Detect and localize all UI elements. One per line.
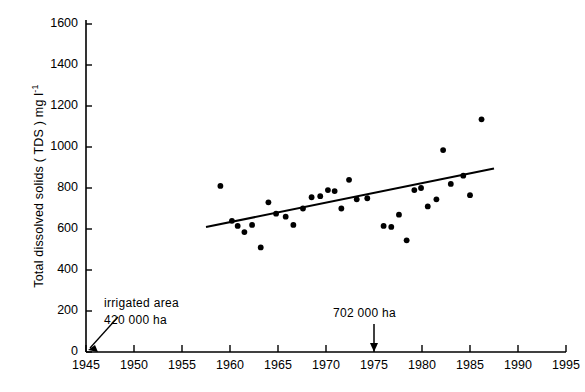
data-point (309, 194, 315, 200)
data-point (404, 237, 410, 243)
data-point (242, 229, 248, 235)
data-point (418, 185, 424, 191)
y-tick-label: 1200 (36, 98, 78, 112)
data-point (467, 192, 473, 198)
data-point (325, 187, 331, 193)
x-tick-label: 1975 (349, 358, 399, 372)
y-tick-label: 1400 (36, 57, 78, 71)
data-point (425, 204, 431, 210)
y-tick-label: 1000 (36, 139, 78, 153)
data-point (396, 212, 402, 218)
y-tick-label: 400 (36, 262, 78, 276)
x-tick-label: 1990 (493, 358, 543, 372)
x-tick-label: 1970 (301, 358, 351, 372)
data-point (235, 223, 241, 229)
data-point (388, 224, 394, 230)
data-point (364, 195, 370, 201)
y-tick-label: 800 (36, 180, 78, 194)
x-tick-label: 1960 (205, 358, 255, 372)
data-point (346, 177, 352, 183)
x-tick-label: 1995 (541, 358, 585, 372)
x-tick-label: 1955 (157, 358, 207, 372)
y-axis-ticks (86, 24, 92, 352)
x-tick-label: 1965 (253, 358, 303, 372)
x-axis-ticks (86, 345, 566, 352)
annotation-arrowhead-1945 (88, 345, 98, 352)
data-point (258, 245, 264, 251)
annotation-702000ha-value: 702 000 ha (333, 306, 396, 320)
y-tick-label: 200 (36, 303, 78, 317)
data-point (354, 196, 360, 202)
y-tick-label: 1600 (36, 16, 78, 30)
annotation-irrigated-area-label: irrigated area (104, 296, 179, 310)
data-point (448, 181, 454, 187)
data-point (300, 206, 306, 212)
x-tick-label: 1985 (445, 358, 495, 372)
data-point (338, 206, 344, 212)
data-point (249, 222, 255, 228)
data-point (317, 193, 323, 199)
chart-figure: Total dissolved solids ( TDS ) mg l-1 02… (0, 0, 585, 392)
annotation-arrowhead-1975 (370, 343, 378, 352)
x-tick-label: 1950 (109, 358, 159, 372)
y-tick-label: 600 (36, 221, 78, 235)
data-point (218, 183, 224, 189)
data-point (273, 211, 279, 217)
data-point (229, 218, 235, 224)
plot-area (0, 0, 585, 392)
data-point (479, 116, 485, 122)
x-tick-label: 1980 (397, 358, 447, 372)
data-point (381, 223, 387, 229)
y-tick-label: 0 (36, 344, 78, 358)
data-point (283, 214, 289, 220)
data-point (290, 222, 296, 228)
data-point (440, 147, 446, 153)
data-points (218, 116, 485, 250)
data-point (266, 199, 272, 205)
annotation-irrigated-area-value: 420 000 ha (104, 313, 167, 327)
data-point (460, 173, 466, 179)
x-tick-label: 1945 (61, 358, 111, 372)
data-point (332, 188, 338, 194)
data-point (434, 196, 440, 202)
data-point (411, 187, 417, 193)
